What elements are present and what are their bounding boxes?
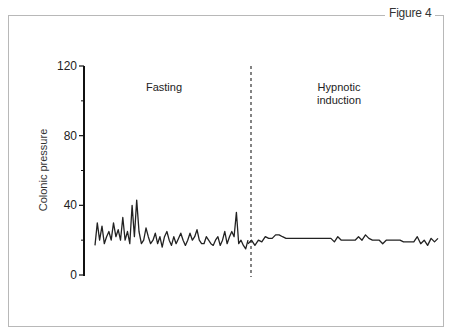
line-chart: 04080120 Colonic pressure Fasting Hypnot… (0, 0, 452, 334)
y-axis-ticks: 04080120 (57, 59, 84, 282)
y-tick-label: 80 (64, 129, 78, 143)
series-hypnotic-line (248, 235, 438, 246)
hypnotic-label-line1: Hypnotic (318, 81, 361, 93)
y-axis-label: Colonic pressure (37, 129, 49, 212)
y-tick-label: 0 (70, 268, 77, 282)
hypnotic-label-line2: induction (317, 94, 361, 106)
series-fasting-line (95, 200, 248, 249)
fasting-label: Fasting (146, 81, 182, 93)
y-tick-label: 120 (57, 59, 77, 73)
y-tick-label: 40 (64, 198, 78, 212)
